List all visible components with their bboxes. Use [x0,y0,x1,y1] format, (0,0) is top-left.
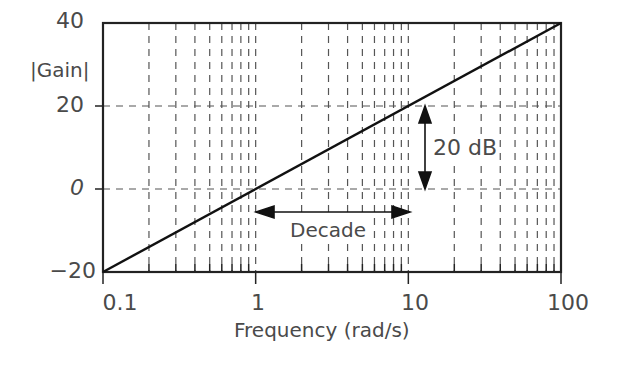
x-tick-100: 100 [547,290,589,315]
y-axis-label: |Gain| [30,58,89,82]
x-tick-0.1: 0.1 [103,290,138,315]
db-arrow [419,106,431,189]
y-tick-0: 0 [24,175,84,200]
y-tick-20: 20 [24,92,84,117]
bode-plot [0,0,622,368]
db-annotation: 20 dB [433,135,497,160]
y-tick-neg20: −20 [36,258,96,283]
x-axis-label: Frequency (rad/s) [234,318,410,342]
y-tick-40: 40 [24,8,84,33]
x-tick-1: 1 [251,290,265,315]
x-tick-10: 10 [401,290,429,315]
decade-annotation: Decade [290,218,366,242]
decade-arrow [256,206,410,218]
